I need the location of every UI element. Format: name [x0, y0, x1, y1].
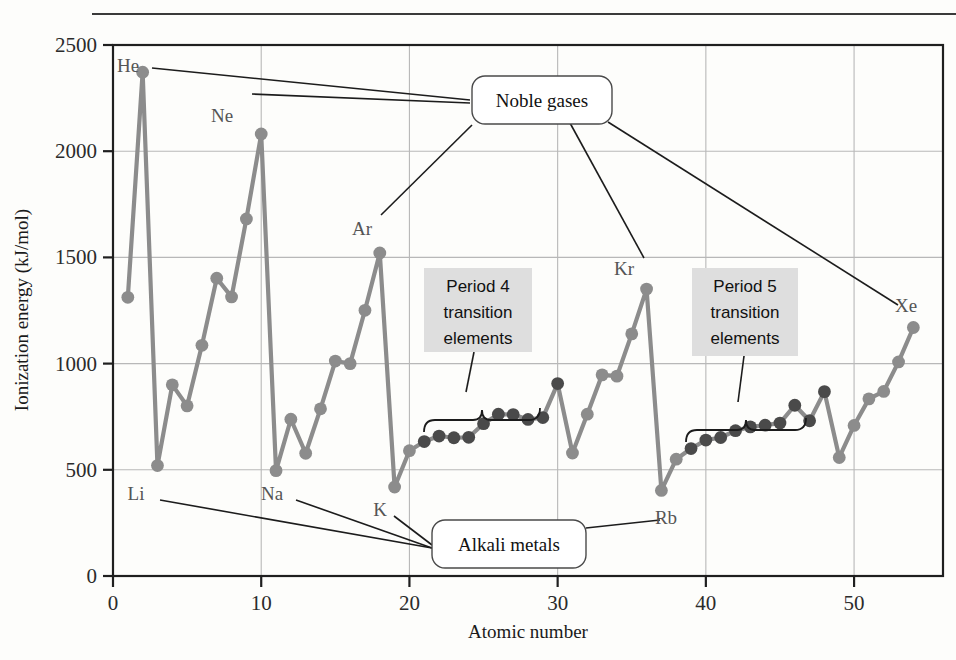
chart-canvas: 0500100015002000250001020304050 [0, 0, 956, 660]
element-label-Kr: Kr [614, 258, 635, 279]
point-Sn [848, 419, 861, 432]
point-Cd [818, 385, 831, 398]
ionization-energy-figure: 0500100015002000250001020304050 [0, 0, 956, 660]
leader-rb-to-alkali [586, 520, 660, 528]
y-tick-label-0: 0 [87, 564, 98, 588]
point-Br [625, 327, 638, 340]
point-F [240, 213, 253, 226]
noble-gases-callout: Noble gases [472, 76, 612, 124]
point-Rb [655, 484, 668, 497]
point-Zr [699, 434, 712, 447]
point-Te [877, 385, 890, 398]
leader-period4-block [466, 352, 474, 392]
point-Y [685, 442, 698, 455]
point-H [121, 291, 134, 304]
x-tick-label-20: 20 [399, 591, 420, 615]
y-tick-label-500: 500 [66, 458, 98, 482]
point-Sc [418, 435, 431, 448]
period-4-line-1: Period 4 [446, 277, 509, 296]
point-V [447, 431, 460, 444]
point-Ne [255, 128, 268, 141]
point-B [181, 399, 194, 412]
element-label-He: He [117, 55, 139, 76]
point-Li [151, 459, 164, 472]
point-I [892, 356, 905, 369]
point-Xe [907, 321, 920, 334]
period-4-line-2: transition [444, 303, 513, 322]
point-As [596, 368, 609, 381]
x-axis-title: Atomic number [468, 621, 588, 642]
point-C [196, 339, 209, 352]
point-Al [299, 447, 312, 460]
element-label-Rb: Rb [655, 507, 677, 528]
leader-ar-to-noble [381, 125, 472, 215]
noble-gases-callout-label: Noble gases [496, 90, 588, 111]
point-Cl [359, 304, 372, 317]
point-Mg [284, 413, 297, 426]
point-Rh [774, 417, 787, 430]
element-label-Na: Na [261, 483, 284, 504]
y-tick-label-2500: 2500 [55, 33, 97, 57]
point-Ti [433, 430, 446, 443]
top-divider-rule [92, 13, 956, 15]
x-tick-label-40: 40 [695, 591, 716, 615]
point-Cr [462, 431, 475, 444]
point-Sb [862, 392, 875, 405]
x-tick-label-50: 50 [844, 591, 865, 615]
point-Ca [403, 444, 416, 457]
point-Na [270, 464, 283, 477]
leader-ne-to-noble [252, 94, 470, 103]
point-Si [314, 402, 327, 415]
period-4-block: Period 4 transition elements [424, 268, 532, 352]
point-K [388, 481, 401, 494]
point-O [225, 291, 238, 304]
point-Be [166, 378, 179, 391]
leader-period5-block [738, 356, 744, 402]
element-label-K: K [373, 499, 387, 520]
period-5-line-2: transition [711, 303, 780, 322]
period-5-line-1: Period 5 [713, 277, 776, 296]
point-N [210, 272, 223, 285]
point-Sr [670, 453, 683, 466]
period-5-line-3: elements [711, 329, 780, 348]
leader-he-to-noble [152, 68, 470, 100]
point-Ge [581, 408, 594, 421]
y-axis-title: Ionization energy (kJ/mol) [11, 209, 33, 411]
point-Nb [714, 431, 727, 444]
period-5-block: Period 5 transition elements [692, 268, 798, 356]
leader-na-to-alkali [296, 500, 432, 548]
y-tick-label-1500: 1500 [55, 245, 97, 269]
x-tick-label-0: 0 [108, 591, 119, 615]
y-tick-label-1000: 1000 [55, 352, 97, 376]
point-Pd [788, 399, 801, 412]
y-tick-label-2000: 2000 [55, 139, 97, 163]
point-P [329, 355, 342, 368]
element-label-Ar: Ar [352, 218, 373, 239]
x-tick-label-10: 10 [251, 591, 272, 615]
alkali-metals-callout-label: Alkali metals [458, 534, 560, 555]
alkali-metals-callout: Alkali metals [432, 520, 586, 568]
point-In [833, 451, 846, 464]
element-label-Li: Li [128, 483, 145, 504]
point-Ar [373, 247, 386, 260]
point-Cu [536, 411, 549, 424]
element-label-Xe: Xe [895, 295, 917, 316]
point-Se [611, 370, 624, 383]
point-Kr [640, 283, 653, 296]
period-4-line-3: elements [444, 329, 513, 348]
leader-li-to-alkali [160, 500, 432, 548]
point-Fe [492, 408, 505, 421]
point-Ga [566, 447, 579, 460]
point-Co [507, 408, 520, 421]
point-S [344, 357, 357, 370]
element-label-Ne: Ne [211, 105, 233, 126]
leader-kr-to-noble [570, 123, 644, 258]
point-Zn [551, 377, 564, 390]
x-tick-label-30: 30 [547, 591, 568, 615]
